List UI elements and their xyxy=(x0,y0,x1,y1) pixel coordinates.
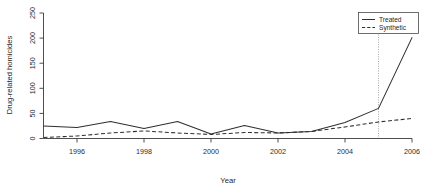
legend-label-treated: Treated xyxy=(379,16,402,23)
legend-label-synthetic: Synthetic xyxy=(379,24,407,32)
x-tick-label: 1996 xyxy=(69,147,85,156)
x-tick-label: 1998 xyxy=(136,147,152,156)
chart-page: 050100150200250 199619982000200220042006… xyxy=(0,0,427,195)
series-layer xyxy=(44,38,413,138)
series-line-treated xyxy=(44,38,413,134)
line-chart: 050100150200250 199619982000200220042006… xyxy=(0,0,427,195)
y-axis-title: Drug-related homicides xyxy=(5,36,14,115)
chart-legend: Treated Synthetic xyxy=(359,13,419,34)
y-tick-label: 50 xyxy=(28,109,37,117)
x-tick-label: 2006 xyxy=(404,147,420,156)
x-tick-label: 2002 xyxy=(270,147,286,156)
plot-frame xyxy=(44,13,413,139)
y-tick-label: 100 xyxy=(28,82,37,94)
x-axis-title: Year xyxy=(220,176,236,185)
x-tick-label: 2000 xyxy=(203,147,219,156)
y-tick-label: 0 xyxy=(28,137,37,141)
axis-titles: Drug-related homicides Year xyxy=(5,36,236,185)
y-tick-label: 250 xyxy=(28,7,37,19)
y-tick-label: 200 xyxy=(28,32,37,44)
y-tick-label: 150 xyxy=(28,57,37,69)
series-line-synthetic xyxy=(44,118,413,137)
x-tick-label: 2004 xyxy=(337,147,353,156)
x-axis-ticks: 199619982000200220042006 xyxy=(69,139,420,157)
y-axis-ticks: 050100150200250 xyxy=(28,7,44,141)
